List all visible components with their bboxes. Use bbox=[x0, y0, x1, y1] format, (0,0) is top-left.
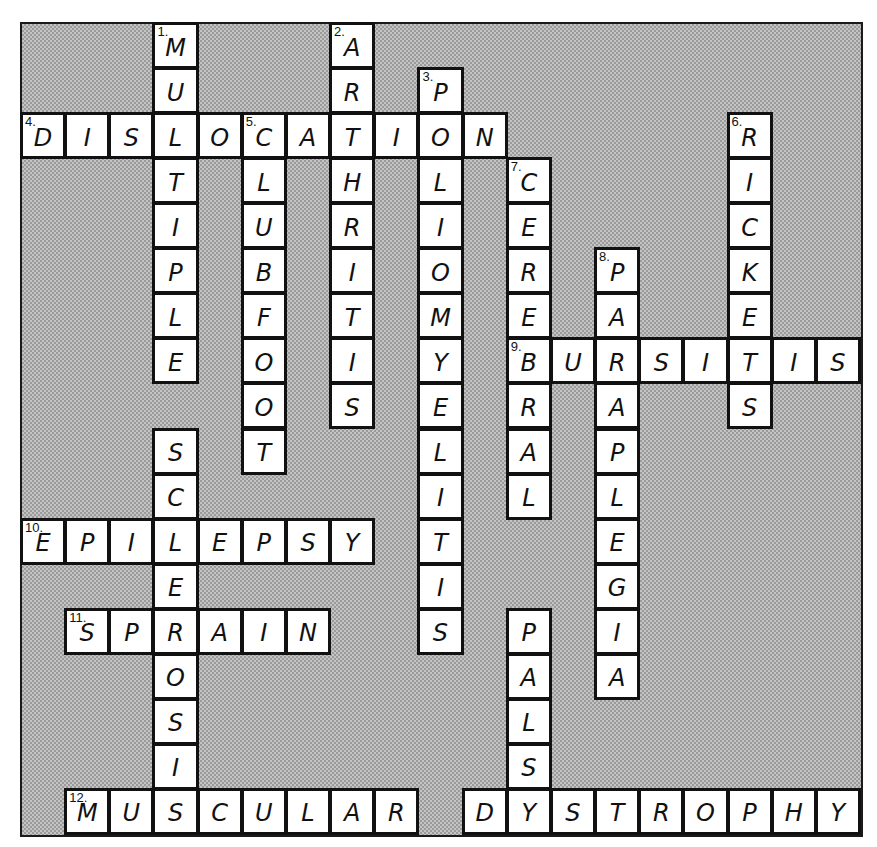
crossword-cell[interactable]: E bbox=[506, 292, 552, 339]
crossword-cell[interactable]: U bbox=[550, 337, 596, 384]
crossword-cell[interactable]: T bbox=[727, 337, 773, 384]
crossword-cell[interactable]: O bbox=[241, 337, 287, 384]
crossword-cell[interactable]: A bbox=[594, 292, 640, 339]
crossword-cell[interactable]: U bbox=[241, 202, 287, 249]
crossword-cell[interactable]: R bbox=[373, 788, 419, 835]
crossword-cell[interactable]: P bbox=[108, 608, 154, 655]
crossword-cell[interactable]: L bbox=[594, 473, 640, 520]
crossword-cell[interactable]: E bbox=[727, 292, 773, 339]
crossword-cell[interactable]: S bbox=[815, 337, 861, 384]
crossword-cell[interactable]: H bbox=[771, 788, 817, 835]
crossword-cell[interactable]: R bbox=[152, 608, 198, 655]
crossword-cell[interactable]: T bbox=[594, 788, 640, 835]
crossword-cell[interactable]: S bbox=[727, 382, 773, 429]
crossword-cell[interactable]: E bbox=[152, 337, 198, 384]
crossword-cell[interactable]: I bbox=[594, 608, 640, 655]
crossword-cell[interactable]: R bbox=[594, 337, 640, 384]
crossword-cell[interactable]: C bbox=[197, 788, 243, 835]
crossword-cell[interactable]: 6R bbox=[727, 112, 773, 159]
crossword-cell[interactable]: I bbox=[417, 202, 463, 249]
crossword-cell[interactable]: 9B bbox=[506, 337, 552, 384]
crossword-cell[interactable]: R bbox=[506, 382, 552, 429]
crossword-cell[interactable]: E bbox=[152, 563, 198, 610]
crossword-cell[interactable]: E bbox=[594, 518, 640, 565]
crossword-cell[interactable]: A bbox=[594, 382, 640, 429]
crossword-cell[interactable]: S bbox=[108, 112, 154, 159]
crossword-cell[interactable]: 8P bbox=[594, 247, 640, 294]
crossword-cell[interactable]: E bbox=[197, 518, 243, 565]
crossword-cell[interactable]: 4D bbox=[20, 112, 66, 159]
crossword-cell[interactable]: S bbox=[329, 382, 375, 429]
crossword-cell[interactable]: I bbox=[771, 337, 817, 384]
crossword-cell[interactable]: I bbox=[682, 337, 728, 384]
crossword-cell[interactable]: S bbox=[152, 428, 198, 475]
crossword-cell[interactable]: N bbox=[462, 112, 508, 159]
crossword-cell[interactable]: I bbox=[329, 247, 375, 294]
crossword-cell[interactable]: U bbox=[152, 67, 198, 114]
crossword-cell[interactable]: L bbox=[152, 112, 198, 159]
crossword-cell[interactable]: O bbox=[197, 112, 243, 159]
crossword-cell[interactable]: A bbox=[594, 653, 640, 700]
crossword-cell[interactable]: F bbox=[241, 292, 287, 339]
crossword-cell[interactable]: 12M bbox=[64, 788, 110, 835]
crossword-cell[interactable]: I bbox=[417, 473, 463, 520]
crossword-cell[interactable]: P bbox=[727, 788, 773, 835]
crossword-cell[interactable]: P bbox=[64, 518, 110, 565]
crossword-cell[interactable]: O bbox=[682, 788, 728, 835]
crossword-cell[interactable]: L bbox=[506, 473, 552, 520]
crossword-cell[interactable]: I bbox=[373, 112, 419, 159]
crossword-cell[interactable]: N bbox=[285, 608, 331, 655]
crossword-cell[interactable]: D bbox=[462, 788, 508, 835]
crossword-cell[interactable]: L bbox=[152, 292, 198, 339]
crossword-cell[interactable]: I bbox=[329, 337, 375, 384]
crossword-cell[interactable]: A bbox=[285, 112, 331, 159]
crossword-cell[interactable]: P bbox=[506, 608, 552, 655]
crossword-cell[interactable]: 5C bbox=[241, 112, 287, 159]
crossword-cell[interactable]: Y bbox=[329, 518, 375, 565]
crossword-cell[interactable]: B bbox=[241, 247, 287, 294]
crossword-cell[interactable]: O bbox=[417, 247, 463, 294]
crossword-cell[interactable]: I bbox=[64, 112, 110, 159]
crossword-cell[interactable]: T bbox=[329, 112, 375, 159]
crossword-cell[interactable]: U bbox=[241, 788, 287, 835]
crossword-cell[interactable]: I bbox=[417, 563, 463, 610]
crossword-cell[interactable]: R bbox=[638, 788, 684, 835]
crossword-cell[interactable]: A bbox=[329, 788, 375, 835]
crossword-cell[interactable]: S bbox=[152, 698, 198, 745]
crossword-cell[interactable]: O bbox=[241, 382, 287, 429]
crossword-cell[interactable]: 2A bbox=[329, 22, 375, 69]
crossword-cell[interactable]: M bbox=[417, 292, 463, 339]
crossword-cell[interactable]: 10E bbox=[20, 518, 66, 565]
crossword-cell[interactable]: Y bbox=[815, 788, 861, 835]
crossword-cell[interactable]: S bbox=[506, 743, 552, 790]
crossword-cell[interactable]: S bbox=[638, 337, 684, 384]
crossword-cell[interactable]: Y bbox=[506, 788, 552, 835]
crossword-cell[interactable]: S bbox=[550, 788, 596, 835]
crossword-cell[interactable]: L bbox=[241, 157, 287, 204]
crossword-cell[interactable]: K bbox=[727, 247, 773, 294]
crossword-cell[interactable]: I bbox=[241, 608, 287, 655]
crossword-cell[interactable]: Y bbox=[417, 337, 463, 384]
crossword-cell[interactable]: S bbox=[152, 788, 198, 835]
crossword-cell[interactable]: 3P bbox=[417, 67, 463, 114]
crossword-cell[interactable]: 1M bbox=[152, 22, 198, 69]
crossword-cell[interactable]: L bbox=[506, 698, 552, 745]
crossword-cell[interactable]: O bbox=[152, 653, 198, 700]
crossword-cell[interactable]: C bbox=[727, 202, 773, 249]
crossword-cell[interactable]: H bbox=[329, 157, 375, 204]
crossword-cell[interactable]: L bbox=[152, 518, 198, 565]
crossword-cell[interactable]: L bbox=[417, 157, 463, 204]
crossword-cell[interactable]: A bbox=[506, 653, 552, 700]
crossword-cell[interactable]: R bbox=[329, 67, 375, 114]
crossword-cell[interactable]: 11S bbox=[64, 608, 110, 655]
crossword-cell[interactable]: U bbox=[108, 788, 154, 835]
crossword-cell[interactable]: I bbox=[108, 518, 154, 565]
crossword-cell[interactable]: I bbox=[152, 743, 198, 790]
crossword-cell[interactable]: A bbox=[506, 428, 552, 475]
crossword-cell[interactable]: L bbox=[285, 788, 331, 835]
crossword-cell[interactable]: R bbox=[506, 247, 552, 294]
crossword-cell[interactable]: O bbox=[417, 112, 463, 159]
crossword-cell[interactable]: P bbox=[152, 247, 198, 294]
crossword-cell[interactable]: E bbox=[506, 202, 552, 249]
crossword-cell[interactable]: E bbox=[417, 382, 463, 429]
